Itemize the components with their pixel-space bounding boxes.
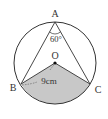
label-a: A (51, 8, 59, 19)
label-b: B (10, 82, 17, 93)
center-point-o (53, 61, 56, 64)
label-o: O (51, 50, 58, 61)
label-angle: 60° (50, 34, 62, 44)
geometry-diagram: A 60° O 9cm B C (0, 0, 108, 119)
label-c: C (95, 84, 102, 95)
label-radius: 9cm (41, 76, 57, 86)
